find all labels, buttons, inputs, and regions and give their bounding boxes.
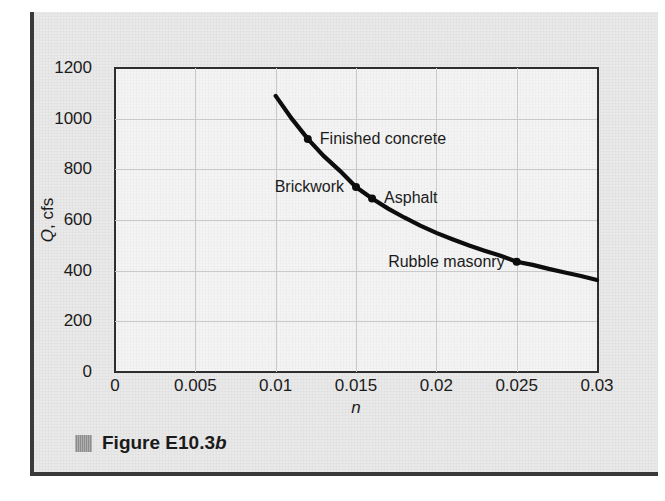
data-point-label: Finished concrete bbox=[320, 130, 446, 148]
x-tick-label: 0.03 bbox=[580, 376, 613, 396]
discharge-roughness-chart: 020040060080010001200 00.0050.010.0150.0… bbox=[34, 12, 658, 422]
y-tick-label: 600 bbox=[64, 210, 92, 230]
x-tick-label: 0.005 bbox=[174, 376, 217, 396]
x-axis-title: n bbox=[351, 398, 360, 418]
y-tick-label: 0 bbox=[83, 362, 92, 382]
x-tick-label: 0.01 bbox=[259, 376, 292, 396]
y-tick-label: 400 bbox=[64, 261, 92, 281]
data-point-label: Asphalt bbox=[384, 189, 437, 207]
gridline-vertical bbox=[195, 68, 196, 372]
caption-suffix: b bbox=[215, 432, 227, 453]
gridline-vertical bbox=[356, 68, 357, 372]
y-tick-label: 200 bbox=[64, 311, 92, 331]
caption-label: Figure E10.3 bbox=[102, 432, 215, 453]
gridline-vertical bbox=[276, 68, 277, 372]
gridline-vertical bbox=[436, 68, 437, 372]
y-axis-title: Q, cfs bbox=[38, 198, 58, 242]
y-tick-label: 1000 bbox=[54, 109, 92, 129]
data-point-label: Brickwork bbox=[275, 178, 344, 196]
caption-text: Figure E10.3b bbox=[102, 432, 227, 454]
caption-swatch-icon bbox=[75, 435, 92, 452]
y-tick-label: 1200 bbox=[54, 58, 92, 78]
axis-spine-right bbox=[597, 67, 599, 373]
y-tick-label: 800 bbox=[64, 159, 92, 179]
x-tick-label: 0.02 bbox=[420, 376, 453, 396]
gridline-vertical bbox=[517, 68, 518, 372]
x-tick-label: 0.015 bbox=[335, 376, 378, 396]
data-point-label: Rubble masonry bbox=[388, 253, 505, 271]
figure-caption: Figure E10.3b bbox=[75, 432, 227, 454]
figure-page: 020040060080010001200 00.0050.010.0150.0… bbox=[0, 0, 665, 501]
page-bottom-rule bbox=[30, 472, 658, 476]
x-tick-label: 0.025 bbox=[495, 376, 538, 396]
x-tick-label: 0 bbox=[110, 376, 119, 396]
